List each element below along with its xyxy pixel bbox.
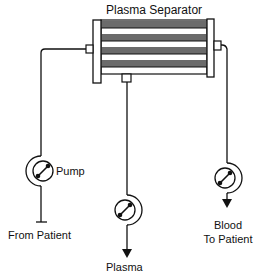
from-patient-label: From Patient bbox=[8, 229, 71, 241]
blood-label: Blood bbox=[200, 219, 256, 231]
to-patient-label: To Patient bbox=[196, 233, 260, 245]
inlet-port bbox=[86, 45, 93, 53]
plasma-line bbox=[127, 82, 142, 250]
pump-icon bbox=[215, 168, 235, 188]
right-end-cap bbox=[207, 19, 214, 77]
plasma-separator bbox=[86, 19, 221, 83]
plasma-label: Plasma bbox=[106, 261, 143, 273]
arrow-down-icon bbox=[122, 249, 132, 258]
plasma-separator-diagram: Plasma Separator Pump From Patient Plasm… bbox=[0, 0, 271, 274]
left-end-cap bbox=[93, 20, 101, 83]
pump-icon bbox=[115, 200, 135, 220]
blood-outlet-port bbox=[214, 41, 221, 50]
arrow-down-icon bbox=[222, 199, 232, 208]
plasma-outlet-port bbox=[122, 74, 131, 82]
pump-icon bbox=[33, 161, 53, 181]
separator-label: Plasma Separator bbox=[106, 4, 202, 16]
pump-label: Pump bbox=[56, 165, 85, 177]
inlet-line bbox=[26, 49, 86, 222]
